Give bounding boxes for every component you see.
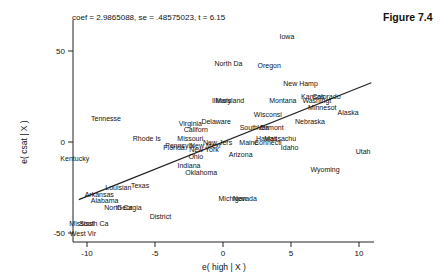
point-label: Wyoming [310, 166, 339, 174]
point-label: Arizona [229, 151, 253, 158]
x-tick-label: -5 [151, 249, 159, 258]
point-label: Montana [269, 97, 296, 104]
x-tick-label: 10 [355, 249, 364, 258]
point-label: Utah [356, 148, 371, 155]
point-label: Delaware [201, 118, 231, 125]
scatter-plot: -50050-10-50510 IowaNorth DaOregonNew Ha… [0, 0, 446, 279]
point-label: Florida [163, 144, 185, 151]
x-tick-label: 0 [221, 249, 226, 258]
point-label: Connecti [254, 139, 282, 146]
point-label: Iowa [280, 33, 295, 40]
y-tick-label: 0 [61, 138, 66, 147]
point-label: Minnesot [308, 104, 336, 111]
x-axis-label: e( high | X ) [202, 262, 246, 272]
point-label: Oregon [258, 62, 281, 70]
point-label: Alaska [338, 109, 359, 116]
point-label: Idaho [281, 144, 299, 151]
point-label: Alabama [91, 197, 119, 204]
point-label: Nebraska [295, 118, 325, 125]
point-label: North Da [214, 60, 242, 67]
point-label: Ohio [188, 153, 203, 160]
x-tick-label: -10 [81, 249, 93, 258]
point-label: Maryland [215, 97, 244, 105]
point-label: Missouri [177, 135, 204, 142]
point-label: Oklahoma [185, 169, 217, 176]
point-label: Nevada [233, 195, 257, 202]
point-label: Californ [184, 126, 208, 133]
point-label: Georgia [117, 204, 142, 212]
point-label: South Ca [79, 220, 108, 227]
y-axis-label: e( csat | X ) [19, 120, 29, 163]
point-label: District [150, 213, 171, 220]
point-label: Texas [131, 182, 150, 189]
point-label: Wisconsi [254, 111, 282, 118]
point-labels: IowaNorth DaOregonNew HampKansasColorado… [60, 33, 370, 237]
point-label: Rhode Is [133, 135, 162, 142]
point-label: Tennesse [91, 115, 121, 122]
point-label: West Vir [70, 230, 97, 237]
point-label: New York [189, 146, 219, 153]
point-label: Indiana [178, 162, 201, 169]
y-tick-label: 50 [56, 47, 65, 56]
x-tick-label: 5 [289, 249, 294, 258]
point-label: Kentucky [60, 155, 89, 163]
point-label: New Hamp [283, 80, 318, 88]
y-tick-label: -50 [53, 229, 65, 238]
point-label: Vermont [258, 124, 284, 131]
point-label: Louisian [105, 184, 131, 191]
